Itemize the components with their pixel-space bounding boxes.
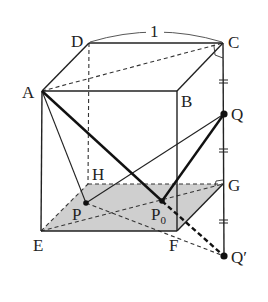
label-D: D — [71, 32, 83, 51]
label-B: B — [181, 92, 192, 111]
label-A: A — [22, 83, 35, 102]
label-E: E — [33, 236, 43, 255]
label-P0-main: P — [151, 205, 160, 224]
point-P — [83, 200, 89, 206]
label-G: G — [228, 176, 240, 195]
edge-DH — [88, 43, 89, 184]
label-Qprime: Q′ — [231, 248, 247, 267]
label-H: H — [92, 165, 104, 184]
point-Q — [220, 110, 227, 117]
label-C: C — [228, 33, 239, 52]
label-edge-length: 1 — [150, 22, 159, 41]
point-Qprime — [220, 252, 227, 259]
point-P0 — [159, 198, 165, 204]
edge-BC — [177, 43, 223, 91]
label-P0-sub: 0 — [160, 214, 166, 226]
edge-AE — [41, 91, 42, 231]
diagonal-AC — [42, 43, 223, 91]
segment-AP — [42, 91, 86, 203]
label-P: P — [72, 205, 81, 224]
label-Q: Q — [231, 105, 243, 124]
cube-diagram: 1 A B C D E F G H P P0 Q Q′ — [0, 0, 268, 302]
label-F: F — [169, 236, 178, 255]
